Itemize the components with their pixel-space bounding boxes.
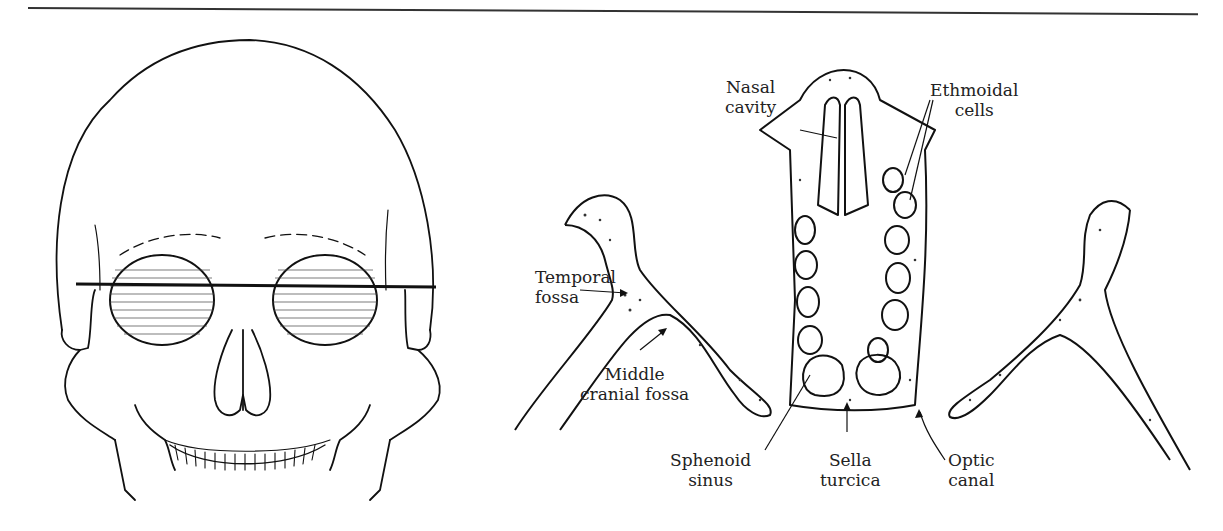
- label-ethmoidal-cells: Ethmoidal cells: [930, 80, 1018, 120]
- label-nasal-cavity: Nasal cavity: [725, 77, 776, 117]
- section-line: [76, 284, 436, 287]
- label-middle-cranial-fossa: Middle cranial fossa: [580, 364, 689, 404]
- diagram-canvas: [0, 0, 1223, 531]
- label-optic-canal: Optic canal: [948, 450, 995, 490]
- orbit-hatching: [110, 270, 377, 334]
- label-sella-turcica: Sella turcica: [820, 450, 881, 490]
- label-temporal-fossa: Temporal fossa: [535, 267, 616, 307]
- label-sphenoid-sinus: Sphenoid sinus: [670, 450, 751, 490]
- section-view: [515, 70, 1190, 470]
- skull-front-view: [57, 40, 440, 500]
